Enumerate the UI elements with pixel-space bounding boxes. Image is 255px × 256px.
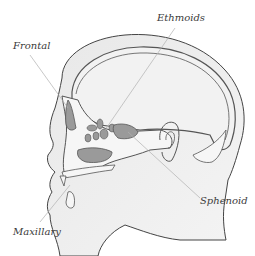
sinus-diagram: Frontal Ethmoids Sphenoid Maxillary: [0, 0, 255, 256]
label-frontal: Frontal: [13, 40, 50, 51]
label-ethmoids: Ethmoids: [157, 12, 205, 23]
label-maxillary: Maxillary: [13, 226, 61, 237]
head-illustration: [0, 0, 255, 256]
label-sphenoid: Sphenoid: [200, 195, 248, 206]
